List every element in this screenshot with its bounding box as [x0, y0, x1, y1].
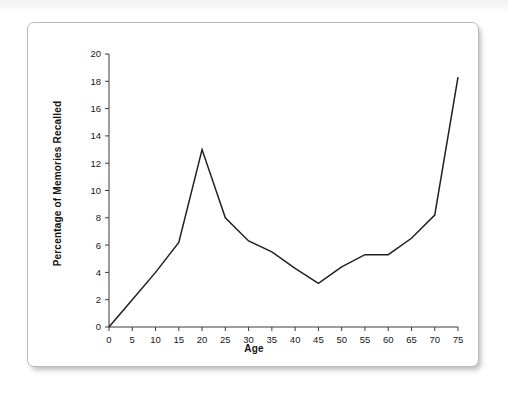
y-tick-label: 6 [96, 240, 101, 251]
y-tick-label: 2 [96, 294, 101, 305]
y-tick-label: 18 [90, 76, 101, 87]
y-tick-label: 8 [96, 212, 101, 223]
data-series-group [109, 77, 458, 327]
y-axis-group: 02468101214161820 [90, 48, 109, 332]
scanned-page-sheet: 02468101214161820 0510152025303540455055… [27, 22, 479, 367]
y-tick-label: 10 [90, 185, 101, 196]
y-axis-title: Percentage of Memories Recalled [52, 84, 63, 284]
y-tick-label: 14 [90, 130, 101, 141]
x-axis-title: Age [28, 343, 480, 354]
line-chart-plot: 02468101214161820 0510152025303540455055… [28, 23, 480, 368]
scan-top-shading [0, 0, 508, 14]
y-tick-label: 0 [96, 321, 101, 332]
memories-recalled-line [109, 77, 458, 327]
y-tick-label: 16 [90, 103, 101, 114]
y-tick-label: 20 [90, 48, 101, 59]
chart-figure: 02468101214161820 0510152025303540455055… [28, 23, 480, 368]
y-tick-label: 4 [96, 267, 101, 278]
y-tick-label: 12 [90, 158, 101, 169]
